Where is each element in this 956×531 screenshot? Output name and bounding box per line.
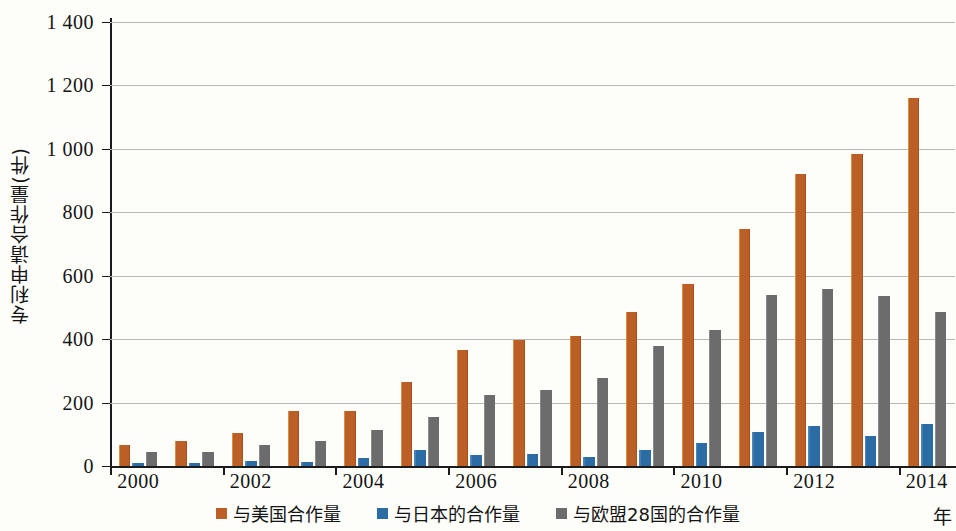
- legend-item: 与欧盟28国的合作量: [556, 500, 740, 526]
- y-axis-tick-labels: 02004006008001 0001 2001 400: [0, 0, 108, 490]
- bar-2005-series-1: [414, 450, 426, 466]
- bar-2005-series-2: [428, 417, 440, 466]
- y-axis-tick-mark: [102, 276, 110, 277]
- bar-group: [673, 22, 729, 466]
- legend-item: 与日本的合作量: [377, 500, 520, 526]
- legend-swatch-icon: [377, 508, 388, 519]
- bar-2003-series-2: [315, 441, 327, 466]
- bar-2002-series-2: [259, 445, 271, 466]
- x-axis-tick-label: 2012: [793, 470, 835, 493]
- bar-2012-series-0: [795, 174, 807, 466]
- x-axis-tick-labels: 20002002200420062008201020122014: [0, 470, 956, 498]
- legend-label: 与欧盟28国的合作量: [573, 500, 740, 526]
- y-axis-tick-mark: [102, 212, 110, 213]
- bar-2005-series-0: [401, 382, 413, 466]
- legend-swatch-icon: [556, 508, 567, 519]
- bar-group: [335, 22, 391, 466]
- x-axis-tick-label: 2008: [568, 470, 610, 493]
- y-axis-tick-label: 600: [63, 264, 95, 287]
- bar-2006-series-0: [457, 350, 469, 466]
- bar-group: [110, 22, 166, 466]
- bar-2000-series-2: [146, 452, 158, 466]
- legend-label: 与美国合作量: [233, 500, 341, 526]
- y-axis-tick-mark: [102, 149, 110, 150]
- y-axis-tick-mark: [102, 339, 110, 340]
- x-axis-tick-label: 2010: [681, 470, 723, 493]
- y-axis-tick-mark: [102, 403, 110, 404]
- bar-2006-series-1: [470, 455, 482, 466]
- y-axis-tick-label: 1 000: [47, 137, 95, 160]
- legend-item: 与美国合作量: [216, 500, 341, 526]
- plot-area: [110, 22, 955, 466]
- y-axis-tick-label: 400: [63, 328, 95, 351]
- bar-2014-series-2: [935, 312, 947, 466]
- bar-2010-series-2: [709, 330, 721, 466]
- x-axis-tick-label: 2000: [117, 470, 159, 493]
- bar-group: [223, 22, 279, 466]
- bar-2008-series-2: [597, 378, 609, 466]
- bar-2001-series-2: [202, 452, 214, 466]
- chart-legend: 与美国合作量与日本的合作量与欧盟28国的合作量: [0, 500, 956, 526]
- bar-2014-series-0: [908, 98, 920, 466]
- bar-2011-series-2: [766, 295, 778, 466]
- x-axis-tick-label: 2006: [455, 470, 497, 493]
- bar-2000-series-0: [119, 445, 131, 466]
- bar-2012-series-2: [822, 289, 834, 466]
- bar-group: [392, 22, 448, 466]
- bar-2013-series-2: [878, 296, 890, 466]
- bar-2007-series-2: [540, 390, 552, 466]
- legend-swatch-icon: [216, 508, 227, 519]
- bar-2014-series-1: [921, 424, 933, 466]
- bar-group: [279, 22, 335, 466]
- bar-2006-series-2: [484, 395, 496, 466]
- bar-2011-series-1: [752, 432, 764, 466]
- bar-2008-series-0: [570, 336, 582, 466]
- bar-group: [730, 22, 786, 466]
- bar-2007-series-0: [513, 340, 525, 466]
- bar-2012-series-1: [808, 426, 820, 466]
- bar-2010-series-0: [682, 284, 694, 466]
- y-axis-tick-label: 200: [63, 391, 95, 414]
- bar-2007-series-1: [527, 454, 539, 466]
- bar-group: [504, 22, 560, 466]
- bar-2003-series-0: [288, 411, 300, 466]
- bar-2009-series-0: [626, 312, 638, 466]
- bar-group: [899, 22, 955, 466]
- y-axis-tick-mark: [102, 22, 110, 23]
- y-axis-tick-label: 1 400: [47, 11, 95, 34]
- bar-2002-series-0: [232, 433, 244, 466]
- bar-2009-series-1: [639, 450, 651, 466]
- bar-2011-series-0: [739, 229, 751, 466]
- bar-2010-series-1: [696, 443, 708, 466]
- bar-group: [786, 22, 842, 466]
- bar-2001-series-0: [175, 441, 187, 466]
- x-axis-tick-label: 2002: [230, 470, 272, 493]
- y-axis-tick-label: 1 200: [47, 74, 95, 97]
- bar-2004-series-2: [371, 430, 383, 466]
- bar-2013-series-1: [865, 436, 877, 466]
- bar-group: [561, 22, 617, 466]
- y-axis-tick-mark: [102, 466, 110, 467]
- patent-cooperation-bar-chart: 专利申请合作量(件) 02004006008001 0001 2001 400 …: [0, 0, 956, 531]
- bar-2004-series-0: [344, 411, 356, 466]
- legend-label: 与日本的合作量: [394, 500, 520, 526]
- bar-group: [448, 22, 504, 466]
- bar-group: [617, 22, 673, 466]
- x-axis-tick-label: 2014: [906, 470, 948, 493]
- y-axis-tick-mark: [102, 85, 110, 86]
- bar-2013-series-0: [851, 154, 863, 466]
- bar-2004-series-1: [358, 458, 370, 466]
- x-axis-tick-label: 2004: [343, 470, 385, 493]
- bar-group: [166, 22, 222, 466]
- bar-group: [842, 22, 898, 466]
- bar-2009-series-2: [653, 346, 665, 466]
- bar-2008-series-1: [583, 457, 595, 466]
- y-axis-tick-label: 800: [63, 201, 95, 224]
